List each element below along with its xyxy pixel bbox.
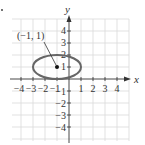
center-point: [55, 65, 59, 69]
coordinate-graph: x y −4 −3 −2 −1 1 2 3 4 4 3 2 1 −1 −2 −3…: [0, 0, 145, 145]
x-tick-label: −2: [38, 83, 49, 94]
y-tick-label: 4: [61, 25, 66, 36]
x-tick-labels: −4 −3 −2 −1 1 2 3 4: [14, 83, 120, 94]
y-tick-label: 3: [61, 37, 66, 48]
y-tick-label: 1: [61, 61, 66, 72]
x-tick-label: −4: [14, 83, 25, 94]
leader-line: [44, 42, 56, 65]
x-tick-label: 2: [91, 83, 96, 94]
x-axis-arrow-icon: [124, 77, 131, 82]
x-tick-label: 3: [103, 83, 108, 94]
y-axis-label: y: [64, 3, 70, 15]
y-tick-label: −2: [55, 98, 66, 109]
y-tick-label: −4: [55, 122, 66, 133]
x-axis-label: x: [133, 73, 139, 85]
y-tick-label: −1: [55, 86, 66, 97]
x-tick-label: −3: [26, 83, 37, 94]
y-tick-label: −3: [55, 110, 66, 121]
y-axis-arrow-icon: [67, 15, 72, 22]
x-tick-label: 4: [115, 83, 120, 94]
x-tick-label: 1: [79, 83, 84, 94]
exercise-marker-dot: [1, 9, 3, 11]
point-label: (−1, 1): [17, 30, 44, 42]
